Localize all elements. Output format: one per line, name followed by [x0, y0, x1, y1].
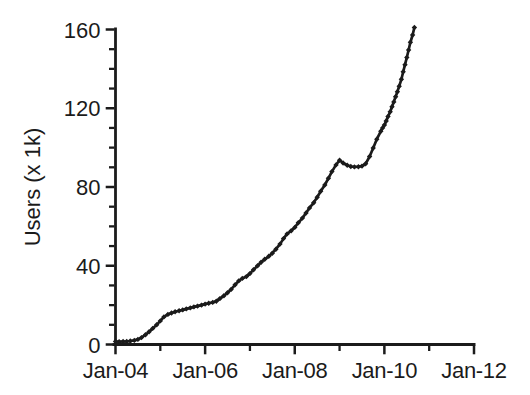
x-tick-label: Jan-08: [262, 358, 328, 383]
data-point-marker: [404, 55, 409, 60]
data-point-marker: [195, 303, 200, 308]
y-tick-label: 0: [88, 333, 100, 358]
data-point-marker: [206, 301, 211, 306]
x-tick-label: Jan-06: [172, 358, 238, 383]
y-tick-label: 80: [76, 175, 100, 200]
y-tick-label: 40: [76, 254, 100, 279]
chart-canvas: Jan-04Jan-06Jan-08Jan-10Jan-120408012016…: [0, 0, 530, 395]
chart: Users (x 1k) Jan-04Jan-06Jan-08Jan-10Jan…: [0, 0, 530, 395]
x-tick-label: Jan-12: [441, 358, 507, 383]
y-tick-label: 120: [64, 96, 101, 121]
data-point-marker: [128, 338, 133, 343]
x-tick-label: Jan-10: [352, 358, 418, 383]
data-series-line: [116, 28, 415, 342]
y-axis-title: Users (x 1k): [20, 128, 46, 247]
data-point-marker: [406, 47, 411, 52]
y-tick-label: 160: [64, 18, 101, 43]
x-tick-label: Jan-04: [83, 358, 149, 383]
data-point-marker: [401, 69, 406, 74]
data-point-marker: [412, 25, 417, 30]
data-point-marker: [402, 62, 407, 67]
